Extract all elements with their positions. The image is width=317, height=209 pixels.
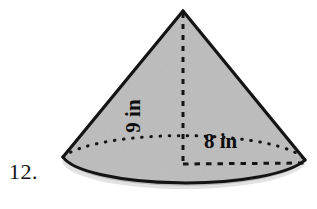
height-dimension-label: 9 in (122, 86, 144, 146)
cone-figure: 12. 9 in 8 in (0, 0, 317, 209)
problem-number: 12. (9, 160, 38, 184)
radius-dimension-label: 8 in (204, 130, 237, 152)
cone-illustration (0, 0, 317, 209)
cone-body (40, 0, 317, 209)
